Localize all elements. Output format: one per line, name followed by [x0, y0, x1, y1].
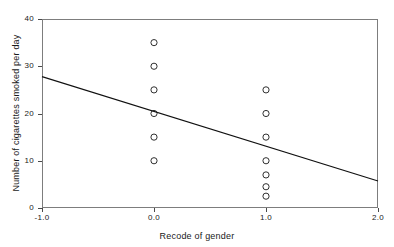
data-point — [151, 87, 157, 93]
x-axis-tick — [154, 208, 155, 212]
x-axis-tick-label: 1.0 — [248, 214, 284, 222]
y-axis-tick — [38, 19, 42, 20]
regression-line-segment — [42, 77, 378, 181]
data-point — [151, 40, 157, 46]
y-axis-tick — [38, 161, 42, 162]
y-axis-tick — [38, 66, 42, 67]
regression-line — [42, 77, 378, 181]
x-axis-tick-label: 0.0 — [136, 214, 172, 222]
data-point — [263, 134, 269, 140]
data-point — [151, 63, 157, 69]
data-points-group — [151, 40, 269, 200]
plot-data-layer — [42, 19, 378, 208]
data-point — [263, 110, 269, 116]
x-axis-tick-label: -1.0 — [24, 214, 60, 222]
data-point — [263, 87, 269, 93]
data-point — [263, 158, 269, 164]
x-axis-tick — [266, 208, 267, 212]
data-point — [151, 158, 157, 164]
data-point — [263, 172, 269, 178]
x-axis-tick-label: 2.0 — [360, 214, 394, 222]
data-point — [151, 134, 157, 140]
x-axis-tick — [42, 208, 43, 212]
x-axis-tick — [378, 208, 379, 212]
data-point — [263, 193, 269, 199]
y-axis-title: Number of cigarettes smoked per day — [11, 18, 21, 208]
data-point — [263, 184, 269, 190]
y-axis-tick — [38, 114, 42, 115]
x-axis-title: Recode of gender — [0, 231, 394, 241]
scatter-chart: 010203040 -1.00.01.02.0 Number of cigare… — [0, 0, 394, 247]
